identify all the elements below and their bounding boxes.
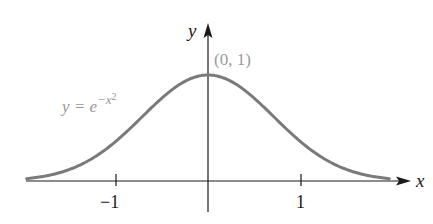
x-axis-label: x <box>415 170 425 191</box>
point-label: (0, 1) <box>214 50 251 69</box>
tick-label-neg1: −1 <box>100 192 119 212</box>
y-axis-label: y <box>186 20 197 41</box>
gaussian-curve-figure: y x −1 1 (0, 1) y = e−x2 <box>0 0 433 224</box>
curve-label: y = e−x2 <box>60 91 117 116</box>
curve-label-exponent-power: 2 <box>112 91 117 102</box>
tick-label-1: 1 <box>296 192 305 212</box>
curve-label-lhs: y = e <box>60 97 98 116</box>
curve-label-exponent: −x <box>97 92 112 107</box>
